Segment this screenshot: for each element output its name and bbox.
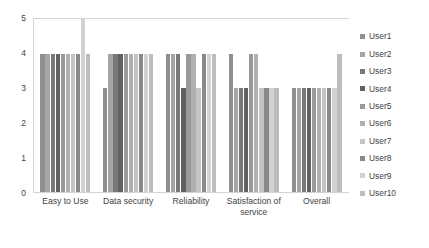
- bar: [124, 54, 128, 192]
- bar: [297, 88, 301, 192]
- plot-area: [34, 19, 348, 192]
- bar: [40, 54, 44, 192]
- bar: [134, 54, 138, 192]
- bar: [264, 88, 268, 192]
- legend-swatch-icon: [360, 52, 365, 57]
- legend-item-user3[interactable]: User3: [360, 63, 426, 80]
- legend-label: User5: [369, 102, 391, 110]
- legend-item-user2[interactable]: User2: [360, 45, 426, 62]
- bar: [76, 54, 80, 192]
- bar: [302, 88, 306, 192]
- bar: [254, 54, 258, 192]
- x-axis-label: Overall: [285, 196, 348, 236]
- legend-swatch-icon: [360, 156, 365, 161]
- legend-swatch-icon: [360, 69, 365, 74]
- bar-group: [34, 19, 97, 192]
- bar: [234, 88, 238, 192]
- x-axis: Easy to UseData securityReliabilitySatis…: [34, 196, 348, 236]
- legend-label: User6: [369, 119, 391, 127]
- bar: [181, 88, 185, 192]
- legend-label: User2: [369, 50, 391, 58]
- bar: [327, 88, 331, 192]
- bar-group: [160, 19, 223, 192]
- bar: [176, 54, 180, 192]
- bar-group: [97, 19, 160, 192]
- y-axis-tick-0: 0: [21, 189, 26, 198]
- legend-item-user5[interactable]: User5: [360, 98, 426, 115]
- bar: [149, 54, 153, 192]
- bar: [239, 88, 243, 192]
- bar-chart: 543210 Easy to UseData securityReliabili…: [0, 0, 429, 248]
- legend-swatch-icon: [360, 121, 365, 126]
- legend-item-user4[interactable]: User4: [360, 80, 426, 97]
- bar: [108, 54, 112, 192]
- x-axis-label: Data security: [97, 196, 160, 236]
- legend-swatch-icon: [360, 191, 365, 196]
- group-spacer: [285, 191, 291, 192]
- bar: [171, 54, 175, 192]
- bar: [45, 54, 49, 192]
- legend-item-user1[interactable]: User1: [360, 28, 426, 45]
- x-axis-label: Satisfaction of service: [222, 196, 285, 236]
- bar: [244, 88, 248, 192]
- bar: [103, 88, 107, 192]
- bar: [191, 54, 195, 192]
- x-axis-label: Easy to Use: [34, 196, 97, 236]
- bar: [269, 88, 273, 192]
- bar: [118, 54, 122, 192]
- group-spacer: [342, 191, 348, 192]
- legend-item-user6[interactable]: User6: [360, 115, 426, 132]
- group-spacer: [97, 191, 103, 192]
- legend-label: User7: [369, 137, 391, 145]
- group-spacer: [34, 191, 40, 192]
- bar: [312, 88, 316, 192]
- legend-label: User10: [369, 189, 396, 197]
- group-spacer: [222, 191, 228, 192]
- bar: [207, 54, 211, 192]
- bar: [332, 88, 336, 192]
- bar: [307, 88, 311, 192]
- y-axis-tick-3: 3: [21, 84, 26, 93]
- bar: [317, 88, 321, 192]
- legend-swatch-icon: [360, 104, 365, 109]
- bar: [113, 54, 117, 192]
- legend-label: User4: [369, 85, 391, 93]
- bar: [259, 88, 263, 192]
- bar: [229, 54, 233, 192]
- bar: [274, 88, 278, 192]
- legend-label: User8: [369, 154, 391, 162]
- y-axis-tick-2: 2: [21, 119, 26, 128]
- legend-swatch-icon: [360, 173, 365, 178]
- bar: [166, 54, 170, 192]
- y-axis: 543210: [0, 18, 30, 193]
- bar: [61, 54, 65, 192]
- y-axis-tick-5: 5: [21, 14, 26, 23]
- legend-item-user10[interactable]: User10: [360, 185, 426, 202]
- legend-label: User1: [369, 32, 391, 40]
- bar: [139, 54, 143, 192]
- bar: [81, 19, 85, 192]
- bar: [337, 54, 341, 192]
- bar: [86, 54, 90, 192]
- bar: [71, 54, 75, 192]
- bar: [144, 54, 148, 192]
- bar-group: [222, 19, 285, 192]
- legend-item-user8[interactable]: User8: [360, 150, 426, 167]
- legend-item-user9[interactable]: User9: [360, 167, 426, 184]
- legend-swatch-icon: [360, 34, 365, 39]
- x-axis-label: Reliability: [160, 196, 223, 236]
- bar: [292, 88, 296, 192]
- y-axis-tick-4: 4: [21, 49, 26, 58]
- bar: [66, 54, 70, 192]
- bar: [56, 54, 60, 192]
- legend-item-user7[interactable]: User7: [360, 132, 426, 149]
- legend-label: User9: [369, 172, 391, 180]
- bar: [322, 88, 326, 192]
- chart-legend: User1User2User3User4User5User6User7User8…: [360, 28, 426, 202]
- bar: [196, 88, 200, 192]
- group-spacer: [160, 191, 166, 192]
- bar: [186, 54, 190, 192]
- legend-label: User3: [369, 67, 391, 75]
- legend-swatch-icon: [360, 139, 365, 144]
- legend-swatch-icon: [360, 86, 365, 91]
